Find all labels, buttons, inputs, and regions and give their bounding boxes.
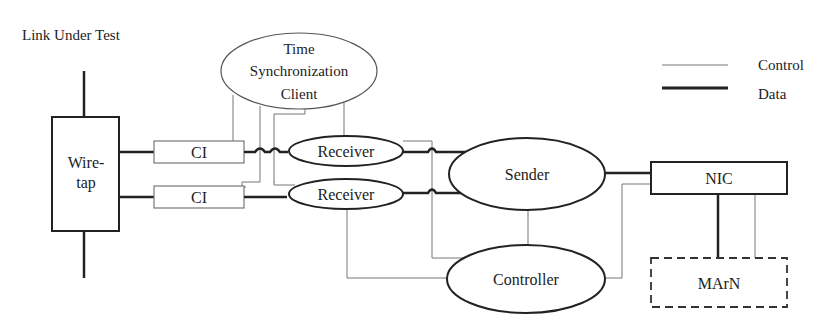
svg-text:Sender: Sender [505, 166, 550, 183]
svg-text:tap: tap [76, 174, 96, 192]
svg-text:NIC: NIC [705, 170, 733, 187]
legend-data-label: Data [758, 86, 787, 102]
svg-text:CI: CI [191, 189, 207, 206]
svg-text:Controller: Controller [493, 271, 559, 288]
receiver-bottom-node: Receiver [289, 179, 403, 209]
wiretap-node: Wire- tap [52, 117, 119, 231]
svg-text:Wire-: Wire- [68, 154, 105, 171]
svg-text:Receiver: Receiver [318, 186, 376, 203]
svg-text:CI: CI [191, 144, 207, 161]
marn-node: MArN [651, 258, 787, 307]
ci-bottom-node: CI [154, 186, 244, 208]
legend: Control Data [662, 57, 804, 102]
diagram-canvas: Link Under Test Control Data Wire- tap T… [0, 0, 840, 333]
ci-top-node: CI [154, 141, 244, 163]
receiver-top-node: Receiver [289, 136, 403, 166]
svg-text:MArN: MArN [698, 275, 741, 292]
time-sync-client-node: Time Synchronization Client [221, 33, 377, 109]
sender-node: Sender [449, 138, 605, 210]
legend-control-label: Control [758, 57, 804, 73]
svg-text:Receiver: Receiver [318, 143, 376, 160]
svg-text:Time: Time [283, 41, 314, 57]
link-under-test-label: Link Under Test [22, 27, 121, 43]
svg-text:Synchronization: Synchronization [250, 63, 349, 79]
svg-text:Client: Client [281, 86, 318, 102]
nic-node: NIC [651, 162, 787, 194]
controller-node: Controller [447, 245, 605, 313]
